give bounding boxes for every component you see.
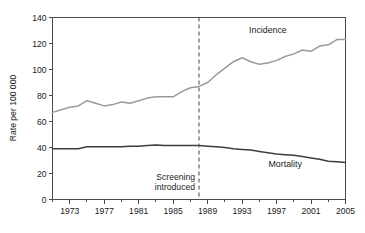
x-tick-label: 1997 [267, 206, 286, 216]
y-tick-label: 0 [42, 195, 47, 205]
y-tick-label: 60 [37, 117, 47, 127]
x-axis-ticks: 197319771981198519891993199720012005 [53, 200, 356, 216]
y-tick-label: 140 [32, 13, 47, 23]
y-tick-label: 120 [32, 39, 47, 49]
rate-trend-line-chart: 020406080100120140 197319771981198519891… [0, 0, 365, 233]
x-tick-label: 1993 [233, 206, 252, 216]
screening-annotation-line2: introduced [155, 182, 195, 192]
x-tick-label: 1973 [60, 206, 79, 216]
x-tick-label: 2005 [336, 206, 355, 216]
screening-annotation-group: Screening introduced [155, 18, 199, 200]
x-tick-label: 2001 [301, 206, 320, 216]
x-tick-label: 1977 [95, 206, 114, 216]
x-tick-label: 1981 [129, 206, 148, 216]
screening-annotation-line1: Screening [156, 172, 195, 182]
y-tick-label: 20 [37, 169, 47, 179]
y-axis-ticks: 020406080100120140 [32, 13, 52, 205]
x-tick-label: 1989 [198, 206, 217, 216]
y-tick-label: 40 [37, 143, 47, 153]
incidence-series-label: Incidence [249, 25, 287, 35]
x-tick-label: 1985 [164, 206, 183, 216]
y-tick-label: 80 [37, 91, 47, 101]
y-axis-title: Rate per 100 000 [8, 75, 18, 142]
y-tick-label: 100 [32, 65, 47, 75]
y-axis-title-group: Rate per 100 000 [8, 75, 18, 142]
series-labels-group: Incidence Mortality [249, 25, 302, 169]
mortality-series-label: Mortality [269, 159, 303, 169]
chart-figure: 020406080100120140 197319771981198519891… [0, 0, 365, 233]
